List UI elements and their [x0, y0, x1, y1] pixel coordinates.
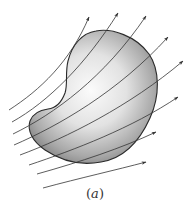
- figure-caption: (a): [0, 186, 190, 201]
- caption-letter: a: [91, 186, 99, 201]
- flux-diagram: [0, 0, 190, 212]
- flow-line-8: [43, 162, 146, 188]
